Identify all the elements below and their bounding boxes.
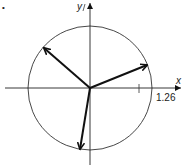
vector-down [80, 88, 90, 149]
corner-mark: • [2, 3, 5, 12]
vector-right-up [90, 65, 147, 88]
x-axis-label: x [175, 75, 182, 86]
y-axis-label: y [76, 1, 83, 12]
diagram-canvas: • y x 1.26 [0, 0, 183, 165]
vector-left-up [44, 48, 90, 88]
y-label-mark [83, 4, 85, 11]
radius-label: 1.26 [156, 92, 176, 103]
